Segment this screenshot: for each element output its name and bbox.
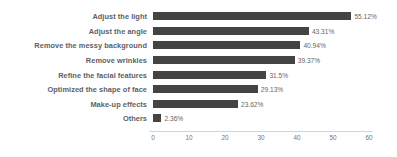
bar-chart-figure: Adjust the light55.12%Adjust the angle43… [0,0,397,157]
bar-row: Refine the facial features31.5% [0,67,397,82]
bar-value-label: 40.94% [303,42,325,49]
bar-track: 31.5% [153,71,397,79]
bar [153,12,351,20]
bar-value-label: 31.5% [269,71,288,78]
x-axis-line [149,131,373,132]
bar [153,114,161,122]
bar-value-label: 55.12% [354,13,376,20]
bar-row: Remove wrinkles39.37% [0,53,397,68]
bar [153,71,266,79]
bar-value-label: 23.62% [241,100,263,107]
bar-row: Make-up effects23.62% [0,97,397,112]
category-label: Adjust the angle [89,26,147,35]
x-tick-label: 10 [185,134,192,141]
bar-value-label: 39.37% [298,57,320,64]
bar [153,27,309,35]
category-label: Adjust the light [92,12,147,21]
category-label: Refine the facial features [58,70,147,79]
bar-track: 40.94% [153,41,397,49]
bar [153,56,295,64]
chart-plot-area: Adjust the light55.12%Adjust the angle43… [0,9,397,126]
category-label: Make-up effects [90,99,147,108]
bar [153,85,258,93]
bar-row: Others2.36% [0,111,397,126]
bar-track: 2.36% [153,114,397,122]
bar-track: 23.62% [153,100,397,108]
category-label: Optimized the shape of face [48,85,148,94]
x-tick-label: 20 [221,134,228,141]
x-tick-label: 40 [293,134,300,141]
bar-track: 39.37% [153,56,397,64]
bar-row: Remove the messy background40.94% [0,38,397,53]
bar-row: Adjust the light55.12% [0,9,397,24]
bar-track: 43.31% [153,27,397,35]
x-tick-label: 50 [329,134,336,141]
x-axis-tick-labels: 0102030405060 [0,134,397,148]
bar-row: Adjust the angle43.31% [0,24,397,39]
bar-value-label: 43.31% [312,27,334,34]
category-label: Remove the messy background [34,41,147,50]
bar [153,41,300,49]
bar-row: Optimized the shape of face29.13% [0,82,397,97]
x-tick-label: 0 [151,134,155,141]
bar-track: 29.13% [153,85,397,93]
x-tick-label: 60 [365,134,372,141]
category-label: Remove wrinkles [86,56,147,65]
bar-value-label: 29.13% [261,86,283,93]
bar-track: 55.12% [153,12,397,20]
category-label: Others [123,114,147,123]
bar-value-label: 2.36% [164,115,183,122]
bar [153,100,238,108]
x-tick-label: 30 [257,134,264,141]
